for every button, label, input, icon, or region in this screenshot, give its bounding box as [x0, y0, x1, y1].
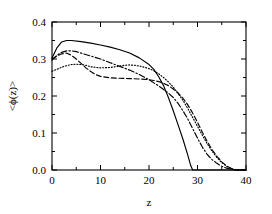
line-chart: 010203040 0.00.10.20.30.4 z <ϕ(z)>	[0, 0, 272, 214]
x-tick-label: 0	[49, 174, 55, 186]
x-axis-label: z	[147, 196, 152, 208]
y-tick-label: 0.1	[32, 127, 46, 139]
x-tick-label: 40	[241, 174, 253, 186]
y-tick-label: 0.2	[32, 90, 46, 102]
y-tick-label: 0.4	[32, 16, 46, 28]
y-tick-label: 0.0	[32, 164, 46, 176]
x-tick-label: 20	[144, 174, 156, 186]
x-tick-label: 30	[192, 174, 204, 186]
chart-figure: 010203040 0.00.10.20.30.4 z <ϕ(z)>	[0, 0, 272, 214]
y-axis-label: <ϕ(z)>	[6, 81, 19, 111]
x-tick-label: 10	[95, 174, 107, 186]
chart-background	[0, 0, 272, 214]
y-tick-label: 0.3	[32, 53, 46, 65]
